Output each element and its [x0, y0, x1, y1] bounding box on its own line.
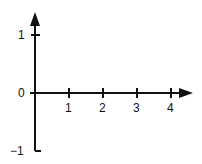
y-axis-arrow-icon	[30, 12, 40, 26]
x-axis-arrow-icon	[179, 88, 193, 98]
x-tick-label-3: 3	[133, 101, 140, 115]
y-tick-label-1: 1	[18, 28, 25, 42]
y-tick-label-0: 0	[18, 86, 25, 100]
x-tick-label-2: 2	[99, 101, 106, 115]
x-tick-label-4: 4	[167, 101, 174, 115]
chart: 1 0 −1 1 2 3 4	[0, 0, 202, 164]
y-tick-label-neg1: −1	[10, 144, 24, 158]
x-tick-label-1: 1	[65, 101, 72, 115]
